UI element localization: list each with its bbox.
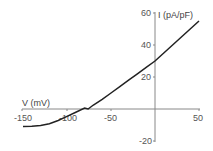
x-tick-label: -100 <box>59 113 77 123</box>
y-tick-label: 40 <box>141 40 151 50</box>
x-axis-label: V (mV) <box>22 98 50 108</box>
y-tick-label: 60 <box>141 8 151 18</box>
x-tick-label: -150 <box>14 113 32 123</box>
y-tick-label: 20 <box>141 72 151 82</box>
y-axis-label: I (pA/pF) <box>158 10 193 20</box>
y-tick-label: -20 <box>139 136 152 146</box>
x-tick-label: 50 <box>193 113 203 123</box>
iv-curve-chart: -150 -100 -50 50 60 40 20 -20 V (mV) I (… <box>0 0 213 151</box>
x-tick-label: -50 <box>104 113 117 123</box>
